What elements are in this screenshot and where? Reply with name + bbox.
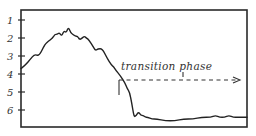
y-tick-label: 5 [7, 87, 13, 98]
y-tick-label: 4 [6, 69, 13, 80]
data-curve [21, 29, 247, 121]
chart: 123456 transition phase [0, 0, 256, 136]
transition-annotation: transition phase [119, 60, 240, 95]
y-tick-label: 3 [7, 51, 13, 62]
y-tick-label: 2 [6, 33, 13, 44]
y-axis-ticks: 123456 [6, 15, 25, 116]
y-tick-label: 6 [7, 105, 14, 116]
annotation-label: transition phase [121, 60, 212, 72]
y-tick-label: 1 [7, 15, 13, 26]
